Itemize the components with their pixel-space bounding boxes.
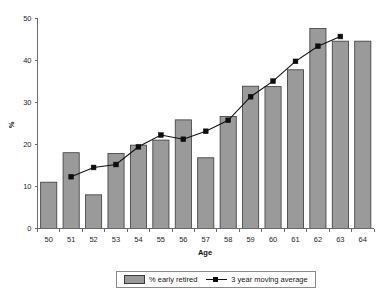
bar <box>310 29 326 229</box>
moving-average-marker <box>338 34 343 39</box>
x-tick-label: 57 <box>202 235 210 244</box>
moving-average-marker <box>114 162 119 167</box>
legend-item-moving-average: 3 year moving average <box>206 276 307 284</box>
moving-average-marker <box>248 94 253 99</box>
x-tick-label: 54 <box>134 235 142 244</box>
bar <box>198 158 214 229</box>
moving-average-marker <box>271 79 276 84</box>
x-tick-label: 55 <box>157 235 165 244</box>
x-tick-label: 52 <box>89 235 97 244</box>
y-tick-label: 30 <box>23 98 31 107</box>
bar <box>41 182 57 228</box>
bar <box>265 87 281 229</box>
bar <box>243 86 259 228</box>
bar <box>287 70 303 229</box>
moving-average-marker <box>158 133 163 138</box>
x-tick-label: 56 <box>179 235 187 244</box>
y-tick-label: 50 <box>23 14 31 23</box>
legend-label-moving-average: 3 year moving average <box>231 276 307 284</box>
bar <box>175 120 191 229</box>
moving-average-marker <box>136 144 141 149</box>
bar <box>220 117 236 229</box>
chart-legend: % early retired 3 year moving average <box>116 271 316 288</box>
moving-average-marker <box>293 59 298 64</box>
x-tick-label: 61 <box>291 235 299 244</box>
chart-container: 01020304050 5051525354555657585960616263… <box>0 0 392 296</box>
bar-series-early-retired <box>41 29 371 229</box>
y-tick-label: 40 <box>23 56 31 65</box>
legend-item-early-retired: % early retired <box>124 275 197 284</box>
x-tick-label: 60 <box>269 235 277 244</box>
bar <box>86 195 102 229</box>
legend-label-early-retired: % early retired <box>149 276 197 284</box>
chart-plot-area: 01020304050 5051525354555657585960616263… <box>0 0 392 296</box>
y-axis-title: % <box>7 121 16 128</box>
bar <box>332 41 348 228</box>
x-tick-label: 64 <box>359 235 367 244</box>
moving-average-marker <box>203 129 208 134</box>
x-axis-title: Age <box>198 248 212 257</box>
x-tick-label: 63 <box>336 235 344 244</box>
moving-average-marker <box>69 174 74 179</box>
moving-average-marker <box>316 44 321 49</box>
y-tick-label: 10 <box>23 182 31 191</box>
y-tick-label: 20 <box>23 140 31 149</box>
bar <box>63 153 79 229</box>
x-tick-label: 53 <box>112 235 120 244</box>
bar <box>153 140 169 228</box>
x-tick-label: 62 <box>314 235 322 244</box>
bar <box>130 145 146 228</box>
x-tick-label: 50 <box>45 235 53 244</box>
line-marker-swatch-icon <box>206 276 227 283</box>
moving-average-marker <box>226 118 231 123</box>
bar-swatch-icon <box>124 275 145 284</box>
x-tick-label: 51 <box>67 235 75 244</box>
moving-average-marker <box>181 137 186 142</box>
x-tick-label: 59 <box>246 235 254 244</box>
y-tick-label: 0 <box>27 224 31 233</box>
x-tick-label: 58 <box>224 235 232 244</box>
bar <box>355 41 371 228</box>
y-axis-ticks: 01020304050 <box>23 14 37 234</box>
x-axis-ticks: 505152535455565758596061626364 <box>38 229 375 244</box>
moving-average-marker <box>91 165 96 170</box>
